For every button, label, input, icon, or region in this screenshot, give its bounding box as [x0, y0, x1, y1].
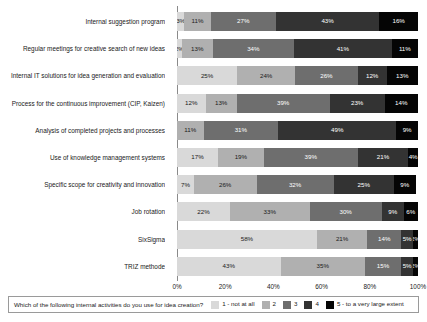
bar-segment: 35%: [281, 257, 365, 276]
bar-segment-value: 30%: [339, 209, 351, 215]
bar-segment: 26%: [295, 66, 358, 85]
bar-segment-value: 14%: [395, 100, 407, 106]
category-label: TRIZ methode: [0, 257, 165, 276]
bar-segment-value: 24%: [260, 73, 272, 79]
bar-segment: 41%: [294, 39, 392, 58]
category-label: Use of knowledge management systems: [0, 148, 165, 167]
bar-segment: 23%: [330, 94, 385, 113]
bar-segment: 58%: [177, 230, 317, 249]
bar-segment: 11%: [184, 12, 211, 31]
bar-segment-value: 25%: [201, 73, 213, 79]
bar-segment: 14%: [385, 94, 418, 113]
legend-item[interactable]: 5 - to a very large extent: [326, 301, 404, 309]
bar-segment-value: 9%: [388, 209, 397, 215]
bar-segment: 11%: [392, 39, 418, 58]
legend-item-label: 2: [273, 301, 276, 307]
chart-legend: Which of the following internal activiti…: [8, 296, 419, 313]
bar-segment: 21%: [317, 230, 368, 249]
bar-segment: 39%: [264, 148, 358, 167]
category-label: Internal suggestion program: [0, 12, 165, 31]
legend-item[interactable]: 1 - not at all: [211, 301, 254, 309]
x-axis-tick-label: 0%: [172, 283, 181, 290]
bar-segment-value: 22%: [197, 209, 209, 215]
bar-segment-value: 35%: [317, 263, 329, 269]
bar-segment: 31%: [204, 121, 279, 140]
bar-segment-value: 41%: [337, 46, 349, 52]
bar-segment: 32%: [257, 175, 334, 194]
legend-entries: 1 - not at all2345 - to a very large ext…: [211, 301, 410, 309]
bar-segment: 34%: [213, 39, 294, 58]
bar-segment-value: 13%: [215, 100, 227, 106]
bar-row: Specific scope for creativity and innova…: [177, 175, 418, 194]
bar-segment-value: 26%: [320, 73, 332, 79]
bar-segment: 21%: [358, 148, 409, 167]
legend-item-label: 4: [315, 301, 318, 307]
x-axis-tick-label: 60%: [315, 283, 328, 290]
bar-segment-value: 17%: [191, 154, 203, 160]
bar-segment: 22%: [177, 202, 230, 221]
x-axis-tick-label: 40%: [267, 283, 280, 290]
legend-item[interactable]: 3: [283, 301, 297, 309]
bar-segment-value: 14%: [378, 236, 390, 242]
bar-segment: 12%: [177, 94, 206, 113]
x-axis-tick-label: 80%: [363, 283, 376, 290]
bar-segment-value: 27%: [237, 18, 249, 24]
bar-segment-value: 2%: [413, 263, 418, 269]
bar-segment-value: 11%: [184, 127, 196, 133]
bar-row: SixSigma58%21%14%5%2%: [177, 230, 418, 249]
bar-row: TRIZ methode43%35%15%5%2%: [177, 257, 418, 276]
bar-segment-value: 58%: [241, 236, 253, 242]
bar-segment: 19%: [218, 148, 264, 167]
bar-segment-value: 3%: [177, 18, 184, 24]
bar-row: Process for the continuous improvement (…: [177, 94, 418, 113]
bar-segment: 17%: [177, 148, 218, 167]
bar-segment-value: 13%: [191, 46, 203, 52]
bar-segment-value: 12%: [185, 100, 197, 106]
bar-segment: 33%: [230, 202, 310, 221]
bar-segment: 25%: [334, 175, 394, 194]
legend-item[interactable]: 2: [262, 301, 276, 309]
category-label: SixSigma: [0, 230, 165, 249]
bar-segment-value: 49%: [331, 127, 343, 133]
bar-segment: 39%: [237, 94, 330, 113]
bar-row: Internal suggestion program3%11%27%43%16…: [177, 12, 418, 31]
bar-segment-value: 39%: [277, 100, 289, 106]
bar-row: Internal IT solutions for idea generatio…: [177, 66, 418, 85]
bar-row: Analysis of completed projects and proce…: [177, 121, 418, 140]
category-label: Specific scope for creativity and innova…: [0, 175, 165, 194]
bar-segment: 25%: [177, 66, 237, 85]
category-label: Process for the continuous improvement (…: [0, 94, 165, 113]
bar-segment: 5%: [401, 257, 413, 276]
bar-segment-value: 33%: [264, 209, 276, 215]
bar-segment-value: 9%: [403, 127, 412, 133]
bar-segment: 4%: [408, 148, 418, 167]
bar-segment-value: 43%: [223, 263, 235, 269]
legend-swatch-icon: [262, 301, 270, 309]
bar-segment: 15%: [365, 257, 401, 276]
bar-segment-value: 5%: [403, 263, 412, 269]
bar-segment-value: 32%: [289, 182, 301, 188]
legend-swatch-icon: [283, 301, 291, 309]
bar-segment-value: 11%: [192, 18, 204, 24]
bar-segment-value: 25%: [358, 182, 370, 188]
bar-segment-value: 31%: [235, 127, 247, 133]
bar-segment-value: 6%: [406, 209, 415, 215]
bar-segment: 3%: [177, 12, 184, 31]
bar-segment: 11%: [177, 121, 204, 140]
bar-segment: 43%: [177, 257, 281, 276]
bar-segment-value: 5%: [403, 236, 412, 242]
bar-segment: 13%: [182, 39, 213, 58]
bar-segment: 30%: [310, 202, 382, 221]
bar-segment: 6%: [404, 202, 418, 221]
bar-segment: 26%: [194, 175, 257, 194]
category-label: Regular meetings for creative search of …: [0, 39, 165, 58]
bar-segment-value: 11%: [399, 46, 411, 52]
legend-item-label: 3: [294, 301, 297, 307]
bar-segment: 43%: [276, 12, 380, 31]
bar-segment: 49%: [278, 121, 396, 140]
legend-swatch-icon: [304, 301, 312, 309]
legend-item[interactable]: 4: [304, 301, 318, 309]
x-axis-tick-label: 20%: [219, 283, 232, 290]
x-axis: 0%20%40%60%80%100%: [177, 281, 418, 295]
bar-segment: 5%: [401, 230, 413, 249]
